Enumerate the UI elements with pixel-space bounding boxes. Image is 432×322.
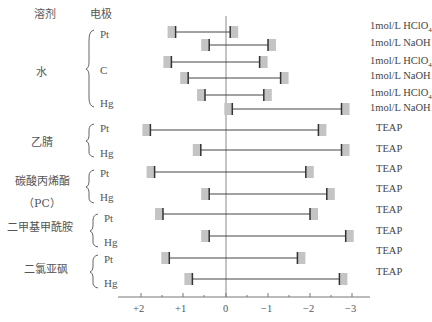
cathodic-limit-block: [342, 144, 350, 156]
x-tick-label: −2: [303, 303, 314, 314]
cathodic-limit-block: [297, 252, 305, 264]
anodic-limit-block: [224, 103, 232, 115]
anodic-limit-block: [193, 144, 201, 156]
x-tick-label: +1: [175, 303, 186, 314]
anodic-limit-block: [180, 72, 188, 84]
cathodic-limit-block: [281, 72, 289, 84]
potential-window-bars: [142, 26, 353, 285]
x-tick-label: 0: [223, 303, 228, 314]
anodic-limit-block: [168, 26, 176, 38]
cathodic-limit-block: [230, 26, 238, 38]
cathodic-limit-block: [306, 166, 314, 178]
x-tick-label: −3: [345, 303, 356, 314]
brace-icons: [86, 30, 98, 288]
anodic-limit-block: [155, 208, 163, 220]
cathodic-limit-block: [318, 124, 326, 136]
x-tick-label: +2: [133, 303, 144, 314]
cathodic-limit-block: [260, 56, 268, 68]
anodic-limit-block: [163, 56, 171, 68]
anodic-limit-block: [201, 230, 209, 242]
anodic-limit-block: [161, 252, 169, 264]
anodic-limit-block: [142, 124, 150, 136]
cathodic-limit-block: [346, 230, 354, 242]
cathodic-limit-block: [339, 273, 347, 285]
x-tick-label: −1: [261, 303, 272, 314]
x-axis-ticks: [141, 293, 352, 297]
cathodic-limit-block: [342, 103, 350, 115]
anodic-limit-block: [147, 166, 155, 178]
cathodic-limit-block: [310, 208, 318, 220]
cathodic-limit-block: [264, 89, 272, 101]
cathodic-limit-block: [327, 188, 335, 200]
anodic-limit-block: [201, 39, 209, 51]
anodic-limit-block: [201, 188, 209, 200]
anodic-limit-block: [184, 273, 192, 285]
anodic-limit-block: [197, 89, 205, 101]
cathodic-limit-block: [268, 39, 276, 51]
